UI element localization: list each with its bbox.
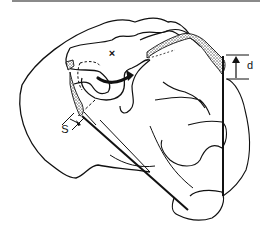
outer-outline bbox=[20, 25, 150, 178]
d-arrow-head bbox=[232, 56, 240, 63]
lower-lobe bbox=[161, 121, 226, 166]
cross-mark: × bbox=[109, 47, 115, 59]
anatomical-diagram: × S d bbox=[0, 0, 267, 234]
dashed-boundary bbox=[78, 62, 100, 90]
d-label: d bbox=[247, 59, 253, 71]
inner-lobe bbox=[82, 60, 150, 100]
stippled-region-left bbox=[66, 60, 83, 116]
curved-arrow bbox=[98, 76, 130, 82]
bottom-knob bbox=[172, 190, 223, 220]
mid-contour bbox=[155, 82, 210, 115]
diagonal-line-thin-2 bbox=[150, 126, 193, 188]
diagonal-line-thick bbox=[82, 116, 188, 210]
d-ticks bbox=[226, 55, 249, 79]
right-flank bbox=[223, 79, 250, 196]
s-label: S bbox=[61, 123, 68, 135]
stippled-region-upper bbox=[147, 33, 225, 74]
diagonal-line-thin bbox=[84, 112, 150, 172]
